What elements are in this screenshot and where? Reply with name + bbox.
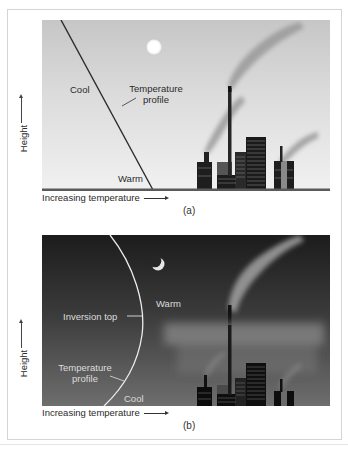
y-axis-height-a: Height — [15, 97, 29, 167]
ground-line — [42, 189, 330, 192]
label-warm: Warm — [156, 298, 181, 309]
y-axis-height-b: Height — [15, 322, 29, 392]
x-axis-temperature-a: Increasing temperature — [42, 192, 166, 203]
caption-divider — [0, 444, 348, 445]
tall-smokestack — [228, 305, 232, 325]
caption-a: (a) — [183, 205, 195, 216]
caption-b: (b) — [183, 420, 195, 431]
temperature-profile-line — [61, 20, 153, 190]
label-temperature-profile: Temperature profile — [126, 83, 186, 105]
label-inversion-top: Inversion top — [63, 311, 117, 322]
panel-a-daytime-lapse: Cool Temperature profile Warm — [42, 20, 330, 191]
label-cool: Cool — [70, 84, 90, 95]
x-axis-temperature-b: Increasing temperature — [42, 407, 166, 418]
right-arrow-icon — [144, 198, 166, 199]
panel-b-night-inversion: Warm Inversion top Temperature profile C… — [42, 235, 330, 406]
panel-a-illustration — [42, 20, 330, 191]
right-arrow-icon — [144, 413, 166, 414]
sun-icon — [147, 40, 162, 55]
label-temperature-profile: Temperature profile — [54, 362, 116, 384]
label-warm: Warm — [118, 173, 143, 184]
crescent-moon-icon — [149, 255, 165, 271]
label-cool: Cool — [124, 393, 144, 404]
smoke-plume-upper — [228, 235, 304, 313]
